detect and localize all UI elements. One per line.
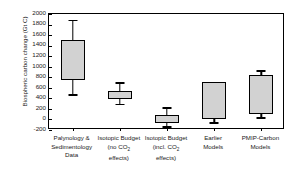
- y-axis-tick-mark: [49, 14, 52, 15]
- y-axis-tick-mark: [49, 119, 52, 120]
- y-axis-tick-label: 1200: [16, 52, 46, 58]
- box-plot-item: [61, 14, 85, 128]
- box-rect: [155, 115, 179, 123]
- box-rect: [61, 40, 85, 80]
- y-axis-tick-label: 400: [16, 94, 46, 100]
- whisker-cap-lower: [163, 126, 172, 128]
- box-plot-item: [202, 14, 226, 128]
- x-axis-category-label: PMIP-CarbonModels: [230, 134, 291, 151]
- whisker-cap-lower: [210, 122, 219, 124]
- y-axis-tick-label: 1400: [16, 41, 46, 47]
- box-plot-item: [249, 14, 273, 128]
- y-axis-tick-mark: [49, 67, 52, 68]
- y-axis-tick-mark: [49, 109, 52, 110]
- whisker-upper: [72, 20, 73, 41]
- y-axis-tick-mark: [49, 130, 52, 131]
- y-axis-tick-label: 1800: [16, 20, 46, 26]
- y-axis-tick-mark: [49, 25, 52, 26]
- whisker-cap-upper: [115, 82, 124, 84]
- x-axis-tick-mark: [261, 128, 262, 131]
- box-plot-item: [155, 14, 179, 128]
- y-axis-tick-mark: [49, 35, 52, 36]
- box-rect: [249, 75, 273, 114]
- y-axis-tick-label: 0: [16, 115, 46, 121]
- y-axis-tick-mark: [49, 98, 52, 99]
- y-axis-tick-label: 1000: [16, 63, 46, 69]
- y-axis-tick-label: 1600: [16, 31, 46, 37]
- whisker-cap-upper: [163, 107, 172, 109]
- whisker-cap-lower: [115, 104, 124, 106]
- x-axis-category-label-line: Models: [230, 143, 291, 152]
- y-axis-tick-mark: [49, 46, 52, 47]
- co2-subscript: 2: [177, 147, 180, 152]
- whisker-cap-lower: [257, 117, 266, 119]
- y-axis-tick-label: 800: [16, 73, 46, 79]
- box-plot-figure: Biospheric carbon change (Gt C) 20001800…: [0, 0, 293, 183]
- x-axis-category-label-line: PMIP-Carbon: [230, 134, 291, 143]
- box-rect: [202, 82, 226, 119]
- x-axis-tick-mark: [214, 128, 215, 131]
- whisker-lower: [72, 80, 73, 94]
- y-axis-tick-mark: [49, 77, 52, 78]
- y-axis-tick-mark: [49, 88, 52, 89]
- y-axis-tick-label: 2000: [16, 10, 46, 16]
- box-rect: [108, 91, 132, 99]
- y-axis-tick-label: 200: [16, 105, 46, 111]
- x-axis-category-label-line: effects): [135, 154, 196, 163]
- x-axis-tick-mark: [73, 128, 74, 131]
- co2-subscript: 2: [127, 147, 130, 152]
- y-axis-tick-mark: [49, 56, 52, 57]
- whisker-cap-upper: [257, 70, 266, 72]
- box-plot-item: [108, 14, 132, 128]
- y-axis-tick-label: 600: [16, 84, 46, 90]
- whisker-cap-upper: [68, 20, 77, 22]
- x-axis-tick-mark: [120, 128, 121, 131]
- x-axis-tick-mark: [167, 128, 168, 131]
- plot-area: [48, 13, 284, 129]
- whisker-cap-lower: [68, 94, 77, 96]
- y-axis-tick-label: -200: [16, 126, 46, 132]
